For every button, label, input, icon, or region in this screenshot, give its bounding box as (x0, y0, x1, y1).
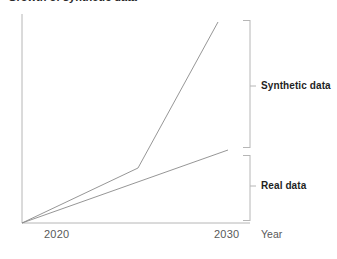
series-line-total (22, 22, 218, 223)
figure-container: Growth of synthetic data 2020 2030 Year (0, 0, 337, 259)
plot-canvas (0, 0, 337, 259)
series-line-real (22, 150, 228, 223)
bracket-real (243, 155, 256, 221)
bracket-label-real-data: Real data (261, 181, 306, 191)
x-axis-title: Year (261, 229, 282, 240)
bracket-label-synthetic-data: Synthetic data (261, 81, 331, 91)
bracket-synthetic (243, 20, 256, 148)
x-tick-label-2020: 2020 (44, 229, 69, 240)
x-tick-label-2030: 2030 (214, 229, 239, 240)
